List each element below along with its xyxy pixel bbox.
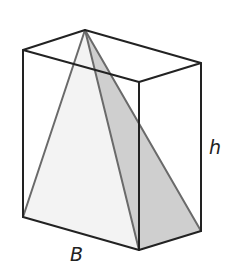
base-label: B (70, 243, 83, 265)
height-label: h (209, 136, 221, 158)
prism-pyramid-diagram: B h (0, 0, 236, 268)
